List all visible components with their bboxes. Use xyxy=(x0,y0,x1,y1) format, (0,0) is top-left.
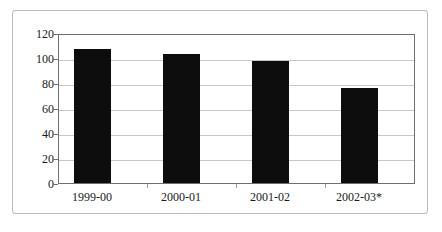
x-tick-label-2000-01: 2000-01 xyxy=(136,190,226,204)
x-tick-label-2001-02: 2001-02 xyxy=(225,190,315,204)
y-axis-label-group: 120 100 80 60 40 20 0 xyxy=(12,34,54,184)
bar-2002-03 xyxy=(341,88,378,183)
y-tick-mark-0 xyxy=(54,184,58,185)
x-tick-mark-1 xyxy=(147,184,148,188)
x-tick-label-2002-03: 2002-03* xyxy=(314,190,404,204)
y-tick-label-100: 100 xyxy=(14,53,54,65)
x-tick-mark-3 xyxy=(325,184,326,188)
bar-2001-02 xyxy=(252,61,289,184)
bar-2000-01 xyxy=(163,54,200,183)
y-tick-label-60: 60 xyxy=(14,103,54,115)
y-tick-label-80: 80 xyxy=(14,78,54,90)
y-tick-label-120: 120 xyxy=(14,28,54,40)
bar-1999-00 xyxy=(74,49,111,183)
x-tick-label-1999-00: 1999-00 xyxy=(47,190,137,204)
y-tick-label-40: 40 xyxy=(14,128,54,140)
plot-area xyxy=(58,34,415,184)
x-tick-mark-2 xyxy=(236,184,237,188)
y-tick-label-0: 0 xyxy=(14,178,54,190)
y-tick-label-20: 20 xyxy=(14,153,54,165)
bar-chart-figure: 120 100 80 60 40 20 0 1999-00 2000-01 20… xyxy=(0,0,442,232)
bars-layer xyxy=(59,35,414,183)
